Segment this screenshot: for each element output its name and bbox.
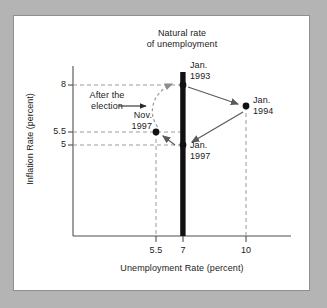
point-nov-1997 [153,129,160,136]
point-label-jan-1997-line2: 1997 [190,151,210,162]
x-tick-label-7: 7 [163,245,203,256]
chart-title-line2: of unemployment [122,39,242,50]
point-jan-1993 [180,82,187,89]
point-label-jan-1993-line2: 1993 [190,71,210,82]
y-axis-label: Inflation Rate (percent) [25,74,35,204]
y-tick-label-8: 8 [36,79,66,90]
chart-title-line1: Natural rate [122,28,242,39]
annotation-after-election-line1: After the [76,90,138,101]
point-label-jan-1993-line1: Jan. [190,60,207,71]
y-tick-label-5: 5 [36,139,66,150]
x-axis-label: Unemployment Rate (percent) [72,263,292,274]
point-jan-1994 [243,103,250,110]
x-axis-ticks [156,236,246,242]
point-label-nov-1997-line1: Nov. [110,110,152,121]
expectation-adjustment-curve [152,84,172,127]
point-jan-1997 [180,142,187,149]
point-label-nov-1997-line2: 1997 [110,121,152,132]
transition-arrows [163,87,243,145]
annotation-after-election-line2: election [76,101,138,112]
x-tick-label-10: 10 [226,245,266,256]
point-label-jan-1994-line1: Jan. [253,95,270,106]
y-tick-label-5-5: 5.5 [36,126,66,137]
figure-panel: Natural rate of unemployment 8 5.5 5 5.5… [13,15,310,291]
point-label-jan-1994-line2: 1994 [253,106,273,117]
y-axis-ticks [68,85,73,145]
natural-rate-line [180,72,185,236]
point-label-jan-1997-line1: Jan. [190,140,207,151]
